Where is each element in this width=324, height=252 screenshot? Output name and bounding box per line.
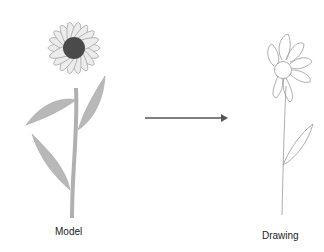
- sketch-petal: [273, 76, 283, 98]
- model-leaf-right: [78, 76, 105, 130]
- sketch-flower-center: [275, 62, 292, 79]
- sketch-leaf: [283, 124, 313, 165]
- arrow-icon: [145, 114, 228, 122]
- model-flower-center: [63, 37, 85, 59]
- sketch-petal: [268, 44, 279, 66]
- model-stem: [72, 88, 76, 218]
- sketch-petal: [279, 34, 290, 60]
- sketch-petal: [290, 70, 310, 82]
- model-label: Model: [55, 226, 82, 237]
- diagram-canvas: [0, 0, 324, 252]
- model-leaf-left-upper: [26, 99, 76, 125]
- sketch-petal: [286, 43, 304, 62]
- sketch-stem: [282, 86, 286, 215]
- drawing-label: Drawing: [262, 230, 299, 241]
- model-leaf-left-lower: [32, 134, 70, 190]
- drawing-flower-sketch: [268, 34, 313, 215]
- sketch-petal: [290, 58, 312, 69]
- model-flower-illustration: [26, 21, 105, 218]
- sketch-petal: [283, 78, 292, 102]
